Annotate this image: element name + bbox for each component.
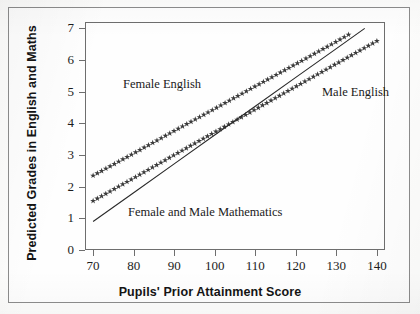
x-tick-label-100: 100 bbox=[195, 259, 235, 273]
x-tick-label-140: 140 bbox=[357, 259, 397, 273]
y-axis-title: Predicted Grades in English and Maths bbox=[25, 18, 39, 268]
y-tick-0 bbox=[79, 250, 85, 251]
series-female-english bbox=[90, 32, 351, 179]
x-tick-90 bbox=[174, 250, 175, 256]
y-tick-label-7: 7 bbox=[52, 21, 74, 34]
x-tick-140 bbox=[377, 250, 378, 256]
y-tick-7 bbox=[79, 28, 85, 29]
series-annotation-male-english: Male English bbox=[322, 85, 389, 99]
y-tick-label-4: 4 bbox=[52, 116, 74, 129]
x-tick-70 bbox=[93, 250, 94, 256]
y-tick-label-6: 6 bbox=[52, 53, 74, 66]
x-tick-110 bbox=[255, 250, 256, 256]
y-tick-5 bbox=[79, 92, 85, 93]
marker-star bbox=[90, 172, 96, 178]
x-tick-label-70: 70 bbox=[73, 259, 113, 273]
x-tick-100 bbox=[215, 250, 216, 256]
x-tick-label-130: 130 bbox=[316, 259, 356, 273]
y-tick-label-3: 3 bbox=[52, 148, 74, 161]
x-tick-130 bbox=[336, 250, 337, 256]
y-tick-label-1: 1 bbox=[52, 211, 74, 224]
x-tick-label-120: 120 bbox=[276, 259, 316, 273]
y-tick-6 bbox=[79, 60, 85, 61]
x-axis-title: Pupils' Prior Attainment Score bbox=[0, 285, 420, 299]
figure-page: Female English Male English Female and M… bbox=[0, 0, 420, 314]
x-tick-label-90: 90 bbox=[154, 259, 194, 273]
y-tick-3 bbox=[79, 155, 85, 156]
x-tick-80 bbox=[134, 250, 135, 256]
x-tick-label-80: 80 bbox=[114, 259, 154, 273]
y-tick-4 bbox=[79, 123, 85, 124]
marker-star bbox=[90, 198, 96, 204]
y-tick-label-2: 2 bbox=[52, 180, 74, 193]
y-tick-2 bbox=[79, 187, 85, 188]
x-tick-label-110: 110 bbox=[235, 259, 275, 273]
series-annotation-mathematics: Female and Male Mathematics bbox=[128, 205, 282, 219]
x-tick-120 bbox=[296, 250, 297, 256]
y-tick-1 bbox=[79, 218, 85, 219]
series-annotation-female-english: Female English bbox=[123, 77, 201, 91]
y-tick-label-5: 5 bbox=[52, 85, 74, 98]
y-tick-label-0: 0 bbox=[52, 243, 74, 256]
